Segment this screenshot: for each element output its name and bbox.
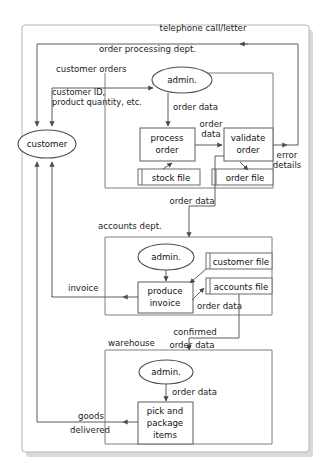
flow-label-goods: goods xyxy=(78,411,104,421)
container-label-warehouse: warehouse xyxy=(108,338,155,348)
flow-label-order-data-mid-1: order xyxy=(200,119,223,129)
data-store-stock-file: stock file xyxy=(138,169,200,185)
external-entity-label-customer: customer xyxy=(27,139,68,149)
process-label-admin-accounts: admin. xyxy=(151,252,181,262)
process-label-pick-1: pick and xyxy=(147,406,183,416)
flow-label-error-1: error xyxy=(277,150,298,160)
data-store-label-accounts-file: accounts file xyxy=(214,282,269,292)
process-label-pick-3: items xyxy=(153,430,177,440)
flow-label-delivered: delivered xyxy=(70,425,110,435)
flow-label-order-data-admin: order data xyxy=(173,102,218,112)
data-store-order-file: order file xyxy=(212,169,273,185)
data-store-label-order-file: order file xyxy=(226,173,265,183)
data-store-label-customer-file: customer file xyxy=(213,257,269,267)
flow-label-details-2: details xyxy=(273,160,302,170)
flow-label-order-data-accounts: order data xyxy=(197,301,242,311)
data-store-label-stock-file: stock file xyxy=(152,173,191,183)
process-label-process-order-1: process xyxy=(150,133,184,143)
flow-label-telephone-call-letter: telephone call/letter xyxy=(160,23,247,33)
process-label-process-order-2: order xyxy=(156,145,179,155)
process-label-validate-order-2: order xyxy=(237,145,260,155)
process-label-pick-2: package xyxy=(147,418,183,428)
flow-label-order-data-pick: order data xyxy=(172,387,217,397)
process-label-admin-warehouse: admin. xyxy=(151,367,181,377)
flow-label-order-data-to-accounts: order data xyxy=(169,196,214,206)
flow-label-product-quantity: product quantity, etc. xyxy=(52,97,142,107)
flow-label-invoice: invoice xyxy=(68,283,99,293)
data-store-accounts-file: accounts file xyxy=(206,278,272,294)
process-label-produce-invoice-1: produce xyxy=(148,286,183,296)
process-label-produce-invoice-2: invoice xyxy=(150,298,181,308)
flow-label-customer-id: customer ID, xyxy=(52,87,105,97)
container-label-order-processing-dept: order processing dept. xyxy=(99,44,196,54)
flow-label-order-data-mid-2: data xyxy=(201,129,220,139)
process-label-validate-order-1: validate xyxy=(231,133,266,143)
process-label-admin-order: admin. xyxy=(167,75,197,85)
flow-label-customer-orders: customer orders xyxy=(56,64,127,74)
data-flow-diagram: telephone call/letter order processing d… xyxy=(0,0,313,465)
flow-label-order-data-warehouse: order data xyxy=(169,340,214,350)
flow-label-confirmed: confirmed xyxy=(173,327,216,337)
container-label-accounts-dept: accounts dept. xyxy=(98,221,162,231)
dfd-canvas: telephone call/letter order processing d… xyxy=(0,0,313,465)
data-store-customer-file: customer file xyxy=(206,253,272,269)
